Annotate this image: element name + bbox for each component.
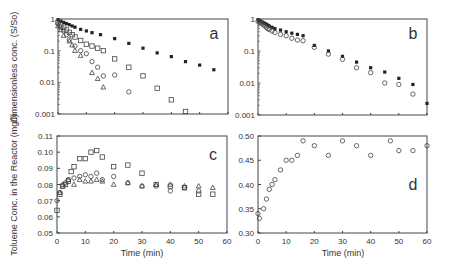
data-point <box>340 139 344 143</box>
y-axis-label-top: Dimensionless conc. (S/So) <box>9 12 19 123</box>
y-tick-label: 0.08 <box>37 181 53 190</box>
x-tick-label: 40 <box>366 237 375 246</box>
data-point <box>397 82 401 86</box>
x-tick-label: 60 <box>423 237 432 246</box>
data-point <box>140 171 144 175</box>
data-point <box>284 34 288 38</box>
data-point <box>90 70 95 74</box>
y-tick-label: 0.01 <box>39 78 55 87</box>
data-point <box>295 38 299 42</box>
data-point <box>112 73 116 77</box>
data-point <box>101 85 106 89</box>
x-tick-label: 30 <box>138 237 147 246</box>
data-point <box>71 24 74 27</box>
data-point <box>369 66 372 69</box>
data-point <box>326 153 330 157</box>
panel-d-chart: 01020304050600.300.350.400.450.50d <box>238 132 432 246</box>
y-tick-label: 0.06 <box>37 213 53 222</box>
data-point <box>90 31 93 34</box>
data-point <box>155 86 159 90</box>
data-point <box>397 77 400 80</box>
data-point <box>354 66 358 70</box>
y-tick-label: 0.1 <box>44 47 56 56</box>
x-tick-label: 10 <box>81 237 90 246</box>
data-point <box>85 29 88 32</box>
x-tick-label: 20 <box>109 237 118 246</box>
data-point <box>141 47 144 50</box>
data-point <box>90 44 94 48</box>
data-point <box>78 53 83 57</box>
data-point <box>198 64 201 67</box>
x-tick-label: 40 <box>166 237 175 246</box>
data-point <box>94 177 99 181</box>
data-point <box>111 165 115 169</box>
y-tick-label: 0.05 <box>37 229 53 238</box>
data-point <box>211 192 215 196</box>
data-point <box>196 189 200 193</box>
data-point <box>72 182 77 186</box>
data-point <box>267 187 271 191</box>
data-point <box>301 34 304 37</box>
panel-letter: d <box>409 176 418 193</box>
y-tick-label: 0.35 <box>238 205 254 214</box>
y-tick-label: 1 <box>51 15 56 24</box>
data-point <box>284 158 288 162</box>
panel-letter: c <box>209 146 217 163</box>
data-point <box>296 33 299 36</box>
data-point <box>264 197 268 201</box>
data-point <box>101 48 105 52</box>
data-point <box>112 57 116 61</box>
data-point <box>285 30 288 33</box>
data-point <box>270 182 274 186</box>
data-point <box>278 32 282 36</box>
data-point <box>72 165 76 169</box>
panel-letter: b <box>409 25 418 42</box>
data-point <box>95 76 100 80</box>
x-tick-label: 30 <box>338 237 347 246</box>
data-point <box>89 179 94 183</box>
y-tick-label: 0.09 <box>37 164 53 173</box>
data-point <box>83 173 87 177</box>
data-point <box>279 28 282 31</box>
data-point <box>312 144 316 148</box>
data-point <box>301 38 305 42</box>
data-point <box>354 144 358 148</box>
data-point <box>61 33 66 37</box>
data-point <box>127 90 131 94</box>
data-point <box>411 83 414 86</box>
data-point <box>69 169 73 173</box>
data-point <box>83 156 87 160</box>
y-tick-label: 1 <box>251 15 256 24</box>
data-point <box>95 65 99 69</box>
data-point <box>196 184 201 188</box>
plot-frame <box>58 19 228 114</box>
data-point <box>388 139 392 143</box>
data-point <box>156 51 159 54</box>
plot-frame <box>258 136 427 233</box>
plot-frame <box>57 136 227 233</box>
data-point <box>141 74 145 78</box>
y-tick-label: 0.40 <box>238 181 254 190</box>
y-tick-label: 0.001 <box>35 110 56 119</box>
y-tick-label: 0.50 <box>238 132 254 141</box>
data-point <box>99 33 102 36</box>
data-point <box>295 153 299 157</box>
y-tick-label: 0.01 <box>239 79 255 88</box>
data-point <box>83 179 88 183</box>
data-point <box>101 74 105 78</box>
data-point <box>210 185 215 189</box>
data-point <box>290 158 294 162</box>
data-point <box>383 81 387 85</box>
x-tick-label: 0 <box>55 237 60 246</box>
y-tick-label: 0.07 <box>37 197 53 206</box>
x-tick-label: 50 <box>194 237 203 246</box>
data-point <box>84 42 88 46</box>
x-tick-label: 50 <box>394 237 403 246</box>
panel-a-chart: 10.10.010.001a <box>35 15 228 119</box>
y-axis-label-bottom: Toluene Conc. in the Reactor (mg/l) <box>9 114 19 256</box>
data-point <box>127 65 131 69</box>
panel-b-chart: 10.10.010.001b <box>235 15 429 120</box>
x-axis-label-c: Time (min) <box>121 248 164 258</box>
x-tick-label: 20 <box>310 237 319 246</box>
data-point <box>100 155 104 159</box>
